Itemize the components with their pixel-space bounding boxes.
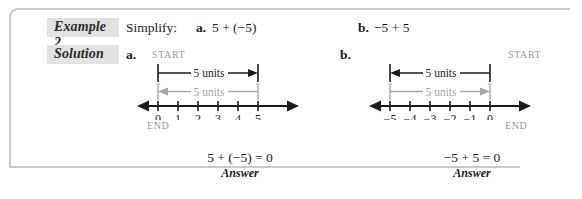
solution-part-a-letter: a. <box>126 47 136 63</box>
answer-word-b: Answer <box>382 166 562 181</box>
axis-tick-label: −5 <box>384 112 397 120</box>
example-part-a-letter: a. <box>196 20 206 36</box>
axis-tick-label: −1 <box>464 112 477 120</box>
axis-tick-label: 5 <box>255 112 261 120</box>
gray-arrow-label-a: 5 units <box>194 86 226 98</box>
answer-word-a: Answer <box>150 166 330 181</box>
black-arrowhead-a <box>248 69 258 77</box>
gray-arrowhead-a <box>158 88 168 96</box>
answer-equation-b: −5 + 5 = 0 <box>382 150 562 166</box>
start-label-a: START <box>152 49 185 60</box>
numberline-svg-b: 5 units 5 units −5−4−3−2−10 <box>368 62 568 120</box>
axis-tick-label: 2 <box>195 112 201 120</box>
axis-ticks-b: −5−4−3−2−10 <box>384 101 493 120</box>
axis-tick-label: 0 <box>487 112 493 120</box>
answer-equation-a: 5 + (−5) = 0 <box>150 150 330 166</box>
black-arrowhead-b <box>390 69 400 77</box>
axis-tick-label: 0 <box>155 112 161 120</box>
example-label-chip: Example 2 <box>47 18 119 37</box>
axis-tick-label: −2 <box>444 112 457 120</box>
gray-arrow-label-b: 5 units <box>426 86 458 98</box>
instruction-text: Simplify: <box>126 20 177 36</box>
axis-tick-label: −4 <box>404 112 417 120</box>
axis-tick-label: −3 <box>424 112 437 120</box>
axis-arrow-left-b <box>369 101 381 112</box>
end-label-a: END <box>147 120 169 131</box>
axis-ticks-a: 012345 <box>155 101 261 120</box>
example-part-a-expression: 5 + (−5) <box>212 20 256 36</box>
gray-arrowhead-b <box>480 88 490 96</box>
axis-tick-label: 4 <box>235 112 241 120</box>
axis-tick-label: 3 <box>215 112 221 120</box>
solution-label-chip: Solution <box>47 45 119 64</box>
numberline-svg-a: 5 units 5 units 012345 <box>136 62 336 120</box>
black-arrow-label-a: 5 units <box>194 67 226 79</box>
answer-block-a: 5 + (−5) = 0 Answer <box>150 150 330 181</box>
solution-part-b-letter: b. <box>340 47 351 63</box>
numberline-diagram-b: 5 units 5 units −5−4−3−2−10 <box>368 62 568 120</box>
end-label-b: END <box>505 120 527 131</box>
numberline-diagram-a: 5 units 5 units 012345 <box>136 62 336 120</box>
example-part-b-expression: −5 + 5 <box>374 20 409 36</box>
axis-arrow-left-a <box>137 101 149 112</box>
axis-arrow-right-a <box>287 101 299 112</box>
example-part-b-letter: b. <box>358 20 369 36</box>
axis-tick-label: 1 <box>175 112 181 120</box>
answer-block-b: −5 + 5 = 0 Answer <box>382 150 562 181</box>
black-arrow-label-b: 5 units <box>426 67 458 79</box>
start-label-b: START <box>508 49 541 60</box>
axis-arrow-right-b <box>519 101 531 112</box>
